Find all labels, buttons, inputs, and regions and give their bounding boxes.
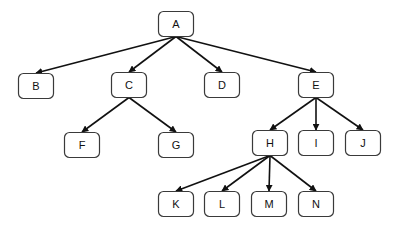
node-label: C bbox=[125, 79, 133, 91]
node-label: B bbox=[32, 80, 39, 92]
node-E: E bbox=[299, 73, 334, 98]
node-L: L bbox=[205, 192, 240, 217]
edge-E-J bbox=[316, 98, 363, 131]
edge-C-F bbox=[82, 98, 129, 133]
node-B: B bbox=[19, 74, 54, 99]
node-A: A bbox=[159, 12, 194, 37]
node-N: N bbox=[299, 192, 334, 217]
node-J: J bbox=[346, 131, 381, 156]
node-label: L bbox=[219, 198, 225, 210]
node-I: I bbox=[299, 131, 334, 156]
edge-E-H bbox=[270, 98, 316, 131]
node-C: C bbox=[112, 73, 147, 98]
node-label: H bbox=[266, 137, 274, 149]
node-D: D bbox=[205, 73, 240, 98]
edge-C-G bbox=[129, 98, 176, 133]
node-label: G bbox=[172, 139, 181, 151]
node-label: F bbox=[79, 139, 86, 151]
edge-H-N bbox=[270, 156, 316, 192]
node-label: A bbox=[172, 18, 180, 30]
node-label: M bbox=[264, 198, 273, 210]
node-label: D bbox=[218, 79, 226, 91]
edges-layer bbox=[36, 37, 363, 192]
node-G: G bbox=[159, 133, 194, 158]
tree-diagram: ABCDEFGHIJKLMN bbox=[0, 0, 403, 228]
edge-H-L bbox=[222, 156, 270, 192]
node-label: N bbox=[312, 198, 320, 210]
node-label: J bbox=[360, 137, 366, 149]
edge-A-B bbox=[36, 37, 176, 74]
edge-H-K bbox=[176, 156, 270, 192]
node-K: K bbox=[159, 192, 194, 217]
node-F: F bbox=[65, 133, 100, 158]
node-M: M bbox=[252, 192, 287, 217]
edge-A-E bbox=[176, 37, 316, 73]
node-label: I bbox=[314, 137, 317, 149]
edge-H-M bbox=[269, 156, 270, 192]
node-H: H bbox=[253, 131, 288, 156]
node-label: E bbox=[312, 79, 319, 91]
node-label: K bbox=[172, 198, 180, 210]
